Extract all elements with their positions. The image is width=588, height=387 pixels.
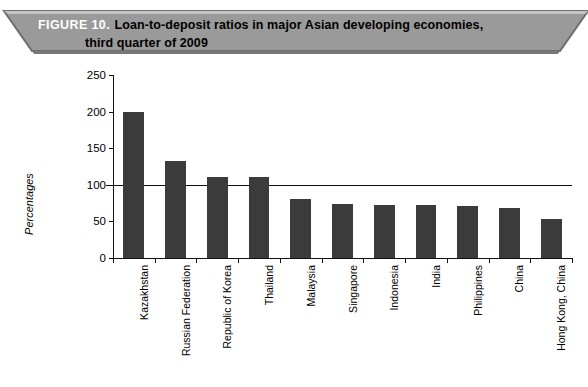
y-tick-mark <box>109 112 113 113</box>
x-tick-mark <box>530 258 531 263</box>
x-tick-mark <box>155 258 156 263</box>
x-tick-label: Singapore <box>347 265 359 313</box>
bar <box>165 161 186 258</box>
x-tick-label: Thailand <box>263 265 275 305</box>
y-tick-label: 50 <box>93 215 106 227</box>
bar <box>416 205 437 258</box>
bar <box>374 205 395 258</box>
bar <box>290 199 311 258</box>
banner-first-line: FIGURE 10. Loan-to-deposit ratios in maj… <box>38 16 538 34</box>
bar <box>207 177 228 258</box>
y-tick-label: 100 <box>87 179 106 191</box>
x-tick-label: Kazakhstan <box>138 265 150 320</box>
x-tick-mark <box>238 258 239 263</box>
figure-title-line-2: third quarter of 2009 <box>85 36 538 52</box>
y-tick-label: 150 <box>87 142 106 154</box>
bar <box>457 206 478 258</box>
x-tick-label: Russian Federation <box>180 265 192 356</box>
bar <box>499 208 520 258</box>
y-tick-mark <box>109 75 113 76</box>
y-tick-mark <box>109 221 113 222</box>
bar <box>332 204 353 258</box>
x-tick-label: Hong Kong, China <box>555 265 567 351</box>
bar <box>541 219 562 258</box>
x-tick-mark <box>363 258 364 263</box>
y-tick-label: 0 <box>100 252 106 264</box>
banner-text: FIGURE 10. Loan-to-deposit ratios in maj… <box>38 16 538 51</box>
x-tick-label: Malaysia <box>305 265 317 306</box>
y-axis-title: Percentages <box>23 149 35 259</box>
x-tick-mark <box>196 258 197 263</box>
bar-chart: Percentages 050100150200250 KazakhstanRu… <box>0 60 588 387</box>
x-tick-label: Indonesia <box>388 265 400 311</box>
x-tick-label: China <box>513 265 525 292</box>
x-tick-mark <box>572 258 573 263</box>
figure-title-line-1: Loan-to-deposit ratios in major Asian de… <box>115 18 484 32</box>
bar <box>249 177 270 258</box>
x-tick-mark <box>322 258 323 263</box>
figure-banner: FIGURE 10. Loan-to-deposit ratios in maj… <box>0 7 588 55</box>
y-axis-line <box>113 75 114 258</box>
x-tick-label: Philippines <box>472 265 484 316</box>
x-tick-mark <box>447 258 448 263</box>
bar <box>123 112 144 258</box>
figure-number-label: FIGURE 10. <box>38 18 110 32</box>
y-tick-label: 200 <box>87 106 106 118</box>
x-tick-mark <box>113 258 114 263</box>
x-tick-mark <box>405 258 406 263</box>
x-tick-mark <box>280 258 281 263</box>
y-tick-mark <box>109 148 113 149</box>
y-tick-label: 250 <box>87 69 106 81</box>
x-tick-mark <box>489 258 490 263</box>
x-tick-label: India <box>430 265 442 288</box>
plot-area: 050100150200250 <box>113 75 572 258</box>
x-tick-label: Republic of Korea <box>221 265 233 348</box>
